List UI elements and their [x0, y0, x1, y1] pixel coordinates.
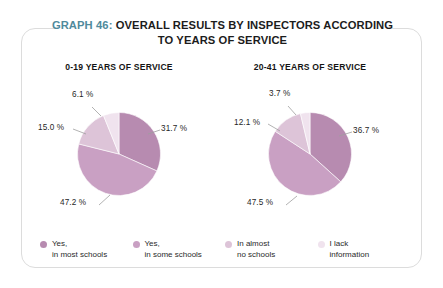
- legend-item-no-schools[interactable]: In almost no schools: [225, 239, 318, 260]
- legend-item-most-schools[interactable]: Yes, in most schools: [40, 239, 133, 260]
- legend-swatch-icon-some-schools: [133, 241, 140, 248]
- legend-swatch-icon-no-schools: [225, 241, 232, 248]
- legend: Yes, in most schools Yes, in some school…: [40, 239, 410, 260]
- page-title: GRAPH 46: OVERALL RESULTS BY INSPECTORS …: [50, 18, 395, 48]
- legend-item-some-schools[interactable]: Yes, in some schools: [133, 239, 226, 260]
- legend-label-no-schools: In almost no schools: [237, 239, 275, 260]
- legend-label-most-schools: Yes, in most schools: [52, 239, 107, 260]
- title-line-1: OVERALL RESULTS BY INSPECTORS ACCORDING: [116, 19, 393, 31]
- pie-chart-left: [77, 112, 161, 196]
- data-label-right-most-schools: 36.7 %: [353, 126, 379, 135]
- data-label-right-no-schools: 12.1 %: [234, 118, 260, 127]
- pie-right-svg: [268, 112, 352, 196]
- panel-caption-right: 20-41 YEARS OF SERVICE: [225, 62, 395, 72]
- legend-label-lack-information: I lack information: [330, 239, 370, 260]
- panel-caption-left: 0-19 YEARS OF SERVICE: [34, 62, 204, 72]
- data-label-left-some-schools: 47.2 %: [60, 198, 86, 207]
- data-label-right-lack-info: 3.7 %: [269, 89, 290, 98]
- graph-card: GRAPH 46: OVERALL RESULTS BY INSPECTORS …: [0, 0, 443, 288]
- pie-left-svg: [77, 112, 161, 196]
- legend-swatch-icon-most-schools: [40, 241, 47, 248]
- data-label-right-some-schools: 47.5 %: [247, 198, 273, 207]
- legend-swatch-icon-lack-information: [318, 241, 325, 248]
- legend-item-lack-information[interactable]: I lack information: [318, 239, 411, 260]
- data-label-left-most-schools: 31.7 %: [161, 124, 187, 133]
- pie-chart-right: [268, 112, 352, 196]
- legend-label-some-schools: Yes, in some schools: [145, 239, 202, 260]
- title-line-2: TO YEARS OF SERVICE: [158, 34, 287, 46]
- data-label-left-no-schools: 15.0 %: [38, 123, 64, 132]
- data-label-left-lack-info: 6.1 %: [72, 90, 93, 99]
- graph-number: GRAPH 46:: [52, 19, 113, 31]
